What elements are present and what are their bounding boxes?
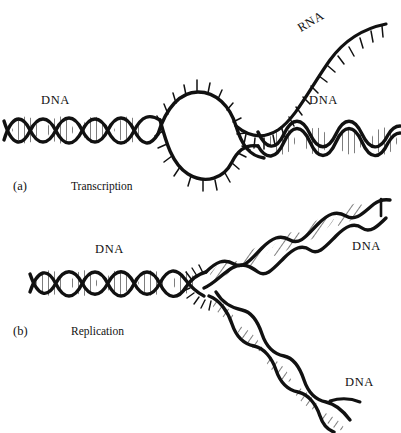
dna-daughter-duplex-lower xyxy=(209,292,360,432)
panel-b-letter: (b) xyxy=(13,325,28,338)
label-dna-parent-b: DNA xyxy=(95,243,124,256)
panel-a-caption: Transcription xyxy=(71,181,133,193)
panel-a-transcription xyxy=(4,24,400,191)
panel-b-replication xyxy=(30,199,390,432)
dna-figure: DNA DNA RNA (a) Transcription DNA DNA DN… xyxy=(0,0,401,433)
transcription-bubble xyxy=(155,80,264,191)
label-dna-left-a: DNA xyxy=(41,94,70,107)
dna-parent-duplex xyxy=(30,270,206,296)
panel-b-caption: Replication xyxy=(71,326,124,338)
dna-duplex-right xyxy=(258,121,400,158)
dna-illustration xyxy=(0,0,401,433)
unpaired-bases-upper xyxy=(157,80,250,150)
label-dna-daughter-upper-b: DNA xyxy=(352,240,381,253)
label-dna-daughter-lower-b: DNA xyxy=(345,376,374,389)
panel-a-letter: (a) xyxy=(13,180,27,193)
label-dna-right-a: DNA xyxy=(309,94,338,107)
dna-duplex-left xyxy=(4,117,160,144)
